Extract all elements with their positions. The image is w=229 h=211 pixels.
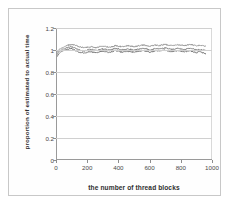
y-tick-mark: [53, 116, 56, 117]
x-tick-mark: [150, 160, 151, 163]
y-tick-mark: [53, 50, 56, 51]
gridline: [56, 28, 212, 29]
x-tick-label: 600: [144, 164, 154, 171]
y-tick-mark: [53, 72, 56, 73]
x-tick-mark: [56, 160, 57, 163]
x-tick-label: 0: [54, 164, 57, 171]
x-tick-label: 200: [82, 164, 92, 171]
gridline: [56, 94, 212, 95]
gridline: [56, 50, 212, 51]
plot-area: [56, 28, 212, 160]
y-tick-mark: [53, 28, 56, 29]
y-axis-label-text: proportion of estimated to actual time: [23, 35, 30, 150]
y-tick-mark: [53, 94, 56, 95]
x-tick-mark: [118, 160, 119, 163]
x-tick-mark: [212, 160, 213, 163]
y-axis-tick-labels: 00.20.40.60.811.2: [34, 23, 54, 163]
x-tick-label: 400: [113, 164, 123, 171]
gridline: [56, 72, 212, 73]
x-tick-label: 800: [176, 164, 186, 171]
gridline: [56, 138, 212, 139]
plot-axis-x: [56, 159, 212, 160]
x-axis-tick-labels: 02004006008001000: [56, 164, 212, 176]
x-tick-mark: [181, 160, 182, 163]
x-axis-label: the number of thread blocks: [43, 184, 225, 191]
chart-figure: proportion of estimated to actual time 0…: [8, 8, 221, 196]
y-axis-label: proportion of estimated to actual time: [19, 27, 33, 157]
x-tick-mark: [87, 160, 88, 163]
x-tick-label: 1000: [205, 164, 219, 171]
gridline: [56, 116, 212, 117]
y-tick-mark: [53, 138, 56, 139]
